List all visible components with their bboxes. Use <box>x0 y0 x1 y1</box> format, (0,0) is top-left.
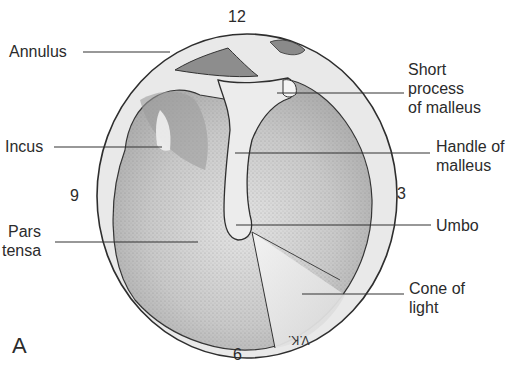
clock-3: 3 <box>397 185 406 203</box>
label-pars-tensa: Pars tensa <box>8 222 41 260</box>
label-handle-line2: malleus <box>436 156 505 175</box>
label-short-process-line2: process <box>408 79 481 98</box>
clock-9: 9 <box>70 187 79 205</box>
label-short-process: Short process of malleus <box>408 60 481 117</box>
label-umbo: Umbo <box>436 216 479 235</box>
artist-initials: V.K. <box>288 333 310 347</box>
label-handle-line1: Handle of <box>436 137 505 156</box>
clock-12: 12 <box>228 8 246 26</box>
clock-6: 6 <box>233 346 242 364</box>
panel-letter: A <box>12 334 27 358</box>
label-cone-line1: Cone of <box>409 279 465 298</box>
label-handle-of-malleus: Handle of malleus <box>436 137 505 175</box>
label-annulus: Annulus <box>9 42 67 61</box>
label-pars-tensa-line1: Pars <box>8 222 41 241</box>
label-cone-line2: light <box>409 298 465 317</box>
label-pars-tensa-line2: tensa <box>2 241 41 260</box>
label-incus: Incus <box>5 137 43 156</box>
label-cone-of-light: Cone of light <box>409 279 465 317</box>
label-short-process-line1: Short <box>408 60 481 79</box>
label-short-process-line3: of malleus <box>408 98 481 117</box>
